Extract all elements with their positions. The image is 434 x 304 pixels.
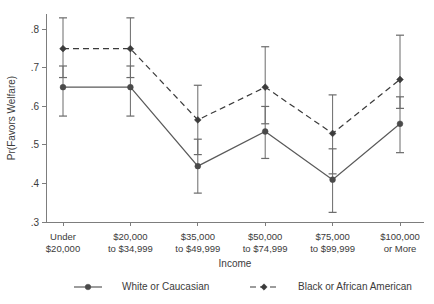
x-tick-label: $50,000: [248, 231, 282, 242]
data-point-marker: [262, 84, 269, 91]
series-2: [59, 18, 404, 174]
y-axis-title: Pr(Favors Welfare): [6, 76, 17, 160]
x-tick-label: to $49,999: [175, 243, 220, 254]
x-axis-title: Income: [219, 258, 252, 269]
x-tick-label: $75,000: [315, 231, 349, 242]
x-tick-label: $100,000: [380, 231, 420, 242]
data-point-marker: [195, 163, 201, 169]
chart-figure: .3.4.5.6.7.8Pr(Favors Welfare)Under$20,0…: [0, 0, 434, 304]
data-point-marker: [330, 177, 336, 183]
series-line: [63, 49, 400, 134]
legend-marker: [85, 284, 91, 290]
y-tick-label: .6: [31, 101, 40, 112]
legend-item-2: Black or African American: [250, 281, 412, 292]
x-tick-label: $20,000: [113, 231, 147, 242]
y-tick-label: .3: [31, 217, 40, 228]
y-tick-label: .7: [31, 62, 40, 73]
data-point-marker: [60, 45, 67, 52]
legend-label: White or Caucasian: [122, 281, 209, 292]
y-tick-label: .5: [31, 139, 40, 150]
legend-item-1: White or Caucasian: [74, 281, 209, 292]
x-tick-label: Under: [50, 231, 76, 242]
legend-marker: [261, 284, 267, 290]
x-tick-label: $20,000: [46, 243, 80, 254]
x-tick-label: $35,000: [181, 231, 215, 242]
legend-label: Black or African American: [298, 281, 412, 292]
series-line: [63, 87, 400, 179]
x-tick-label: to $99,999: [310, 243, 355, 254]
x-tick-label: to $74,999: [243, 243, 288, 254]
data-point-marker: [60, 84, 66, 90]
data-point-marker: [127, 84, 133, 90]
data-point-marker: [397, 121, 403, 127]
line-chart-plot: .3.4.5.6.7.8Pr(Favors Welfare)Under$20,0…: [0, 0, 434, 304]
x-tick-label: to $34,999: [108, 243, 153, 254]
y-tick-label: .4: [31, 178, 40, 189]
y-tick-label: .8: [31, 24, 40, 35]
x-tick-label: or More: [384, 243, 417, 254]
series-1: [59, 66, 404, 212]
chart-legend: White or CaucasianBlack or African Ameri…: [74, 281, 412, 292]
data-point-marker: [262, 129, 268, 135]
